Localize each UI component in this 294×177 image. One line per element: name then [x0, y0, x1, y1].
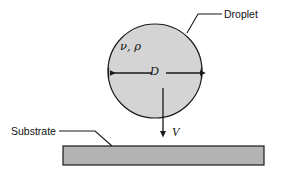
substrate-bar — [63, 146, 264, 165]
droplet-label: Droplet — [224, 9, 258, 20]
diameter-label: D — [150, 65, 159, 77]
droplet-leader-line — [187, 14, 222, 33]
substrate-leader-line — [59, 131, 112, 146]
diagram-canvas: Droplet Substrate ν, ρ D V — [0, 0, 294, 177]
diagram-vector-layer — [0, 0, 294, 177]
substrate-label: Substrate — [11, 126, 56, 137]
fluid-properties-label: ν, ρ — [120, 41, 141, 53]
velocity-label: V — [172, 126, 179, 138]
